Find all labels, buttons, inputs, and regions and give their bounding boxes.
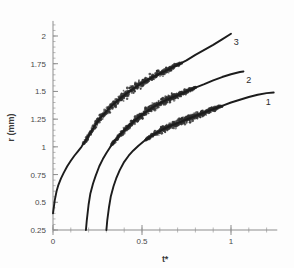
- scatter-point: [134, 90, 136, 92]
- scatter-point: [140, 88, 142, 90]
- scatter-point: [126, 87, 129, 90]
- scatter-point: [148, 113, 150, 115]
- scatter-point: [186, 122, 188, 124]
- x-tick-label: 0.5: [136, 237, 148, 246]
- y-axis-title: r (mm): [6, 113, 16, 141]
- scatter-point: [123, 100, 125, 102]
- scatter-point: [194, 112, 196, 114]
- scatter-point: [141, 117, 143, 119]
- scatter-point: [111, 107, 114, 110]
- scatter-point: [137, 120, 139, 122]
- figure-container: 0.250.50.7511.251.51.752 00.51 321 r (mm…: [0, 0, 294, 268]
- series-curve-3: [53, 34, 231, 214]
- y-tick-label: 1.5: [35, 87, 47, 96]
- scatter-point: [158, 134, 160, 136]
- scatter-point: [205, 114, 207, 116]
- scatter-point: [126, 98, 129, 101]
- x-axis-tick-labels: 00.51: [51, 237, 234, 246]
- scatter-point: [171, 70, 173, 72]
- series-label-2: 2: [246, 75, 251, 85]
- scatter-point: [162, 75, 164, 77]
- scatter-point: [153, 79, 155, 81]
- scatter-point: [160, 132, 163, 135]
- scatter-point: [154, 109, 157, 112]
- scatter-point: [100, 113, 102, 115]
- scatter-point: [129, 127, 131, 129]
- series-curve-1: [106, 93, 273, 230]
- scatter-point: [138, 80, 140, 82]
- scatter-point: [123, 90, 125, 92]
- y-tick-label: 1.75: [30, 60, 46, 69]
- series-label-3: 3: [234, 37, 239, 47]
- scatter-points-layer: [82, 62, 224, 147]
- y-tick-label: 0.75: [30, 171, 46, 180]
- scatter-point: [150, 110, 152, 112]
- y-tick-label: 1: [42, 143, 47, 152]
- x-tick-label: 1: [229, 237, 234, 246]
- scatter-point: [160, 104, 162, 106]
- series-label-1: 1: [266, 97, 271, 107]
- scatter-plot: 0.250.50.7511.251.51.752 00.51 321 r (mm…: [0, 0, 294, 268]
- y-tick-label: 2: [42, 32, 47, 41]
- scatter-point: [173, 99, 176, 102]
- x-tick-label: 0: [51, 237, 56, 246]
- scatter-point: [200, 117, 202, 119]
- y-tick-label: 0.5: [35, 198, 47, 207]
- scatter-point: [139, 86, 141, 88]
- y-tick-label: 0.25: [30, 226, 46, 235]
- y-tick-label: 1.25: [30, 115, 46, 124]
- y-axis-tick-labels: 0.250.50.7511.251.51.752: [30, 32, 46, 235]
- scatter-point: [177, 98, 179, 100]
- scatter-point: [148, 73, 151, 76]
- scatter-point: [157, 106, 160, 109]
- x-axis-title: t*: [162, 254, 169, 264]
